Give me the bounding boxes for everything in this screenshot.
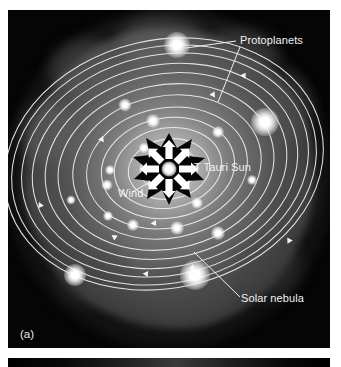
protoplanet [170,221,184,235]
protoplanet [103,211,113,221]
label-wind: Wind [118,188,143,199]
protoplanet [105,165,115,175]
protoplanet [211,226,225,240]
panel-b-partial [8,358,330,367]
figure-container: Protoplanets T Tauri Sun Wind Solar nebu… [0,0,341,367]
protoplanet [146,114,160,128]
protoplanet [119,99,132,112]
label-protoplanets: Protoplanets [240,35,303,46]
protoplanet [102,180,113,191]
protoplanet [127,219,139,231]
label-solar-nebula: Solar nebula [241,293,304,304]
panel-a-solar-nebula: Protoplanets T Tauri Sun Wind Solar nebu… [8,10,330,348]
protoplanet [247,175,257,185]
protoplanet [251,108,279,136]
protoplanet [212,126,224,138]
t-tauri-star-core [162,161,177,176]
protoplanet [67,196,76,205]
protoplanet [180,260,210,290]
protoplanet [64,264,86,286]
panel-label-a: (a) [20,329,34,341]
protoplanet [164,32,190,58]
label-t-tauri-sun: T Tauri Sun [194,162,251,173]
